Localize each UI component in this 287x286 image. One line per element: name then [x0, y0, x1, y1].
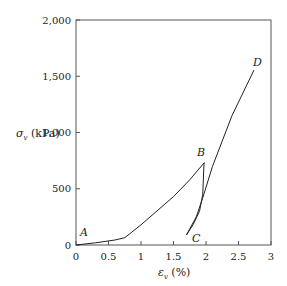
point-label-b: B: [196, 146, 205, 159]
stress-strain-chart: 0 500 1,000 1,500 2,000 0 0.5 1 1.5 2 2.…: [0, 0, 287, 286]
y-tick-label: 1,500: [42, 71, 71, 82]
x-axis-label: εv (%): [158, 266, 190, 281]
point-label-a: A: [79, 226, 88, 239]
x-tick-label: 2: [203, 251, 209, 262]
y-axis: [76, 20, 80, 245]
y-tick-label: 2,000: [42, 15, 71, 26]
x-tick-label: 0.5: [101, 251, 117, 262]
point-label-c: C: [192, 232, 201, 245]
x-tick-label: 3: [268, 251, 274, 262]
x-tick-label: 1: [138, 251, 144, 262]
plot-frame: [76, 20, 271, 245]
y-axis-label: σv (kPa): [16, 127, 60, 142]
loading-curve-a-b: [76, 163, 205, 245]
x-tick-label: 2.5: [231, 251, 247, 262]
y-tick-label: 0: [65, 240, 71, 251]
point-label-d: D: [252, 56, 262, 69]
x-tick-label: 1.5: [166, 251, 182, 262]
x-tick-label: 0: [73, 251, 79, 262]
y-tick-label: 500: [52, 183, 71, 194]
